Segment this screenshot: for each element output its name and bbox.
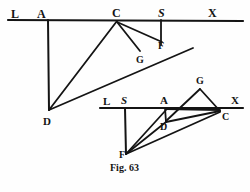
lower-diagram-point-label-s: S (121, 95, 127, 106)
lower-diagram-point-label-g: G (196, 76, 204, 86)
lower-diagram-point-label-f: F (119, 150, 125, 160)
figure-caption: Fig. 63 (110, 162, 139, 173)
lower-diagram-point-label-a: A (160, 95, 168, 106)
lower-diagram-point-label-c: C (222, 112, 229, 122)
upper-diagram-point-label-g: G (136, 55, 144, 65)
figure-canvas: LACSXFGDLSAXGCDF Fig. 63 (0, 0, 250, 192)
upper-diagram-point-label-s: S (158, 7, 165, 19)
lower-diagram-point-label-l: L (103, 96, 110, 107)
upper-diagram-point-label-c: C (112, 7, 121, 19)
upper-diagram-line-C-F (117, 22, 162, 42)
lower-diagram-line-F-C (126, 112, 220, 154)
upper-diagram-point-label-l: L (11, 8, 19, 20)
lower-diagram-line-F-A (126, 110, 166, 154)
upper-diagram-point-label-f: F (158, 41, 164, 51)
line-segments-group (8, 20, 243, 154)
upper-diagram-point-label-d: D (43, 116, 51, 127)
lower-diagram-line-A-C (166, 109, 220, 110)
upper-diagram-point-label-x: X (208, 7, 217, 19)
upper-diagram-vertical-A-D (48, 20, 49, 110)
lower-diagram-vertical-S-F (125, 108, 126, 154)
lower-diagram-point-label-d: D (160, 122, 167, 132)
lower-diagram-point-label-x: X (231, 95, 239, 106)
upper-diagram-point-label-a: A (37, 8, 46, 20)
